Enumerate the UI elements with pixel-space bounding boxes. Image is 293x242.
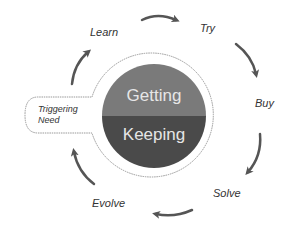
triggering-label: Triggering (38, 104, 78, 115)
arrow-evolve-to-trigger (74, 152, 94, 184)
getting-label: Getting (84, 87, 224, 104)
arrow-buy-to-solve (248, 134, 260, 172)
stage-evolve: Evolve (92, 198, 125, 209)
stage-solve: Solve (213, 188, 241, 199)
keeping-label: Keeping (84, 126, 224, 143)
need-label: Need (38, 115, 60, 126)
arrow-trigger-to-learn (72, 52, 88, 84)
stage-try: Try (200, 23, 215, 34)
customer-cycle-diagram: Getting Keeping Triggering Need Learn Tr… (0, 0, 293, 242)
stage-buy: Buy (255, 98, 274, 109)
stage-learn: Learn (90, 27, 118, 38)
arrow-learn-to-try (142, 16, 176, 20)
arrow-try-to-buy (236, 44, 256, 74)
arrow-solve-to-evolve (156, 210, 192, 215)
